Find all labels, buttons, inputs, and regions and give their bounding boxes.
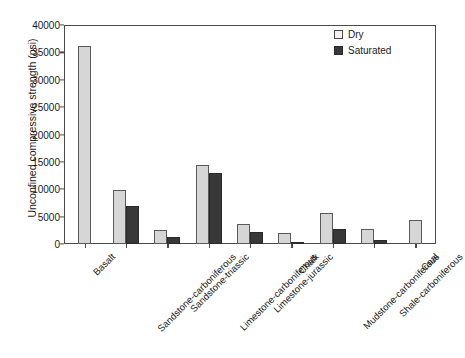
y-axis-tick-label: 20000: [0, 129, 60, 140]
legend-label-saturated: Saturated: [348, 45, 391, 56]
bar-saturated[interactable]: [291, 242, 304, 244]
legend-swatch-saturated-icon: [334, 46, 343, 55]
bar-dry[interactable]: [113, 190, 126, 244]
bar-saturated[interactable]: [333, 229, 346, 244]
x-axis-tick-mark: [374, 244, 375, 248]
y-axis-tick-label: 25000: [0, 102, 60, 113]
bar-saturated[interactable]: [374, 240, 387, 244]
y-axis-tick-label: 35000: [0, 47, 60, 58]
y-axis-tick-label: 10000: [0, 184, 60, 195]
bar-dry[interactable]: [196, 165, 209, 244]
x-axis-tick-label: Sandstone-carboniferous: [155, 251, 238, 334]
legend: Dry Saturated: [334, 29, 391, 61]
x-axis-tick-mark: [126, 244, 127, 248]
bar-dry[interactable]: [361, 229, 374, 244]
legend-item-saturated[interactable]: Saturated: [334, 45, 391, 56]
x-axis-tick-label: Basalt: [90, 251, 116, 277]
bar-dry[interactable]: [237, 224, 250, 244]
bar-dry[interactable]: [409, 220, 422, 244]
y-axis-tick-label: 5000: [0, 211, 60, 222]
bar-saturated[interactable]: [167, 237, 180, 244]
bar-dry[interactable]: [154, 230, 167, 244]
y-axis-tick-label: 40000: [0, 20, 60, 31]
x-axis-tick-mark: [250, 244, 251, 248]
bar-dry[interactable]: [320, 213, 333, 244]
x-axis-tick-mark: [291, 244, 292, 248]
y-axis-tick-label: 0: [0, 239, 60, 250]
bar-dry[interactable]: [78, 46, 91, 244]
bar-saturated[interactable]: [250, 232, 263, 244]
x-axis-tick-mark: [415, 244, 416, 248]
legend-label-dry: Dry: [348, 29, 364, 40]
bar-saturated[interactable]: [209, 173, 222, 244]
legend-swatch-dry-icon: [334, 30, 343, 39]
legend-item-dry[interactable]: Dry: [334, 29, 391, 40]
x-axis-tick-mark: [333, 244, 334, 248]
y-axis-tick-label: 15000: [0, 156, 60, 167]
x-axis-tick-mark: [167, 244, 168, 248]
x-axis-tick-mark: [85, 244, 86, 248]
bar-saturated[interactable]: [126, 206, 139, 244]
y-axis-tick-label: 30000: [0, 74, 60, 85]
x-axis-tick-mark: [209, 244, 210, 248]
bar-dry[interactable]: [278, 233, 291, 244]
